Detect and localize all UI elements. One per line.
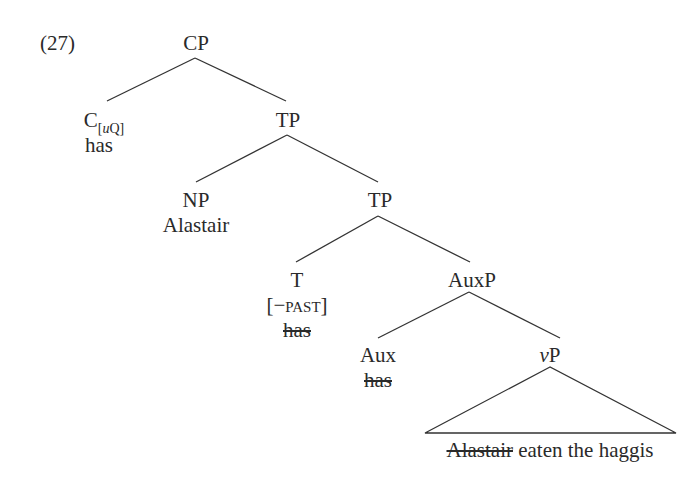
- branch-tp-t: [296, 216, 378, 262]
- node-tp-intermediate: TP: [368, 188, 393, 212]
- node-c-label: C: [84, 108, 98, 132]
- branch-cp-c: [107, 58, 195, 101]
- node-tp: TP: [276, 108, 301, 132]
- example-number: (27): [40, 31, 75, 55]
- branch-cp-tp: [195, 58, 286, 101]
- node-t: T: [291, 268, 304, 292]
- node-np: NP: [183, 188, 210, 212]
- branch-tp-tp: [287, 135, 378, 182]
- node-auxp: AuxP: [448, 268, 496, 292]
- node-cp: CP: [183, 31, 209, 55]
- node-aux-word-deleted: has: [364, 368, 392, 392]
- branch-tp-auxp: [378, 216, 470, 262]
- branch-auxp-vp: [469, 292, 560, 338]
- branch-tp-np: [196, 135, 287, 182]
- tree-branches: [0, 0, 698, 486]
- node-np-word: Alastair: [163, 213, 229, 237]
- branch-auxp-aux: [378, 292, 469, 338]
- vp-triangle: [425, 367, 676, 433]
- past-feature: [−past]: [266, 293, 327, 317]
- node-t-word-deleted: has: [283, 318, 311, 342]
- node-vp: vP: [539, 343, 560, 367]
- vp-yield: Alastair eaten the haggis: [446, 438, 653, 462]
- node-aux: Aux: [360, 343, 396, 367]
- alastair-deleted: Alastair: [446, 438, 512, 462]
- node-c-word: has: [85, 133, 113, 157]
